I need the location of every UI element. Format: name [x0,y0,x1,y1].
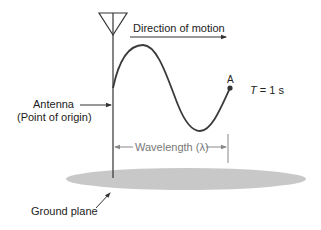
antenna-icon [99,13,127,178]
ground-plane-label: Ground plane [31,205,98,218]
ground-plane-pointer [96,193,110,208]
period-value: = 1 s [257,84,284,96]
period-symbol: T [250,84,257,96]
point-a-marker [227,85,232,90]
point-a-label: A [227,73,234,86]
ground-plane [66,168,306,190]
direction-of-motion-label: Direction of motion [133,22,225,35]
period-label: T = 1 s [250,84,284,97]
antenna-sublabel: (Point of origin) [17,111,92,124]
antenna-label: Antenna [33,98,74,111]
wavelength-label: Wavelength (λ) [135,141,209,154]
sine-wave [113,45,230,131]
